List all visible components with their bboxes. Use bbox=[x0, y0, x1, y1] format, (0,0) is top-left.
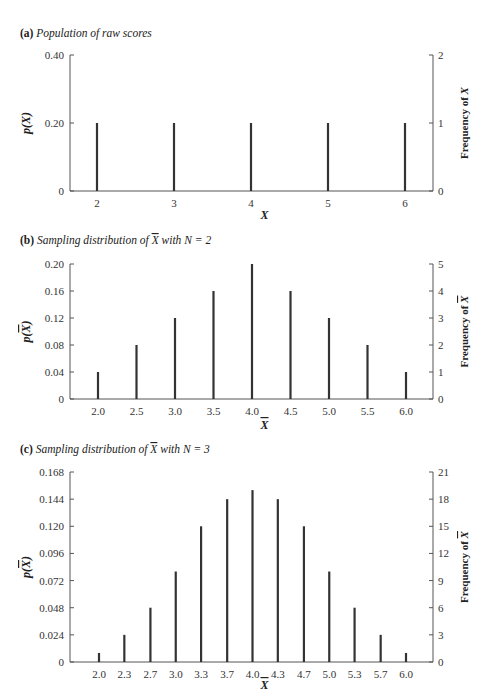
x-tick-label: 5.0 bbox=[322, 405, 336, 417]
panel-title: (b) Sampling distribution of X with N = … bbox=[20, 234, 211, 247]
y-tick-label: 0.120 bbox=[39, 520, 64, 532]
y-tick-label: 0 bbox=[59, 656, 65, 668]
chart-panel-c: (c) Sampling distribution of X with N = … bbox=[19, 443, 470, 692]
x-tick-label: 4.0 bbox=[245, 405, 259, 417]
x-tick-label: 2.0 bbox=[92, 668, 106, 680]
y-tick-label-right: 3 bbox=[438, 629, 444, 641]
x-tick-label: 2.5 bbox=[130, 405, 144, 417]
y-tick-label: 0.16 bbox=[45, 285, 65, 297]
x-tick-label: 3 bbox=[171, 197, 177, 209]
y-tick-label: 0.08 bbox=[45, 339, 65, 351]
x-axis-label: X bbox=[259, 678, 269, 692]
y-tick-label-right: 2 bbox=[438, 339, 444, 351]
figure: (a) Population of raw scores00.200.40012… bbox=[0, 0, 491, 693]
y-tick-label-right: 0 bbox=[438, 393, 444, 405]
y-tick-label-right: 2 bbox=[438, 49, 444, 61]
x-tick-label: 3.5 bbox=[207, 405, 221, 417]
x-tick-label: 6 bbox=[402, 197, 408, 209]
y-tick-label-right: 21 bbox=[438, 466, 449, 478]
y-tick-label-right: 1 bbox=[438, 366, 444, 378]
y-tick-label-right: 0 bbox=[438, 656, 444, 668]
y-tick-label: 0.096 bbox=[39, 547, 64, 559]
x-tick-label: 3.0 bbox=[169, 668, 183, 680]
y-tick-label-right: 5 bbox=[438, 258, 444, 270]
y-tick-label: 0.072 bbox=[39, 575, 64, 587]
y-tick-label-right: 0 bbox=[438, 185, 444, 197]
x-axis-label: X bbox=[259, 208, 269, 222]
y-tick-label: 0.144 bbox=[39, 493, 64, 505]
x-tick-label: 2.0 bbox=[91, 405, 105, 417]
x-tick-label: 5.7 bbox=[374, 668, 388, 680]
x-tick-label: 5.0 bbox=[322, 668, 336, 680]
y-tick-label-right: 3 bbox=[438, 312, 444, 324]
x-tick-label: 3.7 bbox=[220, 668, 234, 680]
x-tick-label: 4.7 bbox=[297, 668, 311, 680]
y-tick-label-right: 4 bbox=[438, 285, 444, 297]
y-tick-label: 0 bbox=[59, 393, 65, 405]
y-tick-label: 0.12 bbox=[45, 312, 64, 324]
x-tick-label: 4.0 bbox=[246, 668, 260, 680]
x-tick-label: 4.5 bbox=[284, 405, 298, 417]
x-tick-label: 5 bbox=[325, 197, 331, 209]
x-axis-label: X bbox=[259, 418, 269, 432]
y-tick-label: 0.024 bbox=[39, 629, 64, 641]
y-tick-label-right: 15 bbox=[438, 520, 450, 532]
y-tick-label: 0.04 bbox=[45, 366, 65, 378]
x-tick-label: 2.7 bbox=[144, 668, 158, 680]
y-tick-label: 0.168 bbox=[39, 466, 64, 478]
y-axis-label-right: Frequency of X bbox=[458, 530, 470, 603]
y-tick-label-right: 18 bbox=[438, 493, 450, 505]
x-tick-label: 5.3 bbox=[348, 668, 362, 680]
x-tick-label: 2.3 bbox=[117, 668, 131, 680]
x-tick-label: 6.0 bbox=[399, 405, 413, 417]
y-tick-label-right: 12 bbox=[438, 547, 449, 559]
x-tick-label: 2 bbox=[94, 197, 100, 209]
panel-title: (c) Sampling distribution of X with N = … bbox=[20, 443, 210, 456]
y-tick-label: 0.048 bbox=[39, 602, 64, 614]
x-tick-label: 4.3 bbox=[271, 668, 285, 680]
x-tick-label: 4 bbox=[248, 197, 254, 209]
x-tick-label: 5.5 bbox=[361, 405, 375, 417]
y-axis-label-right: Frequency of X bbox=[458, 295, 470, 368]
y-tick-label: 0 bbox=[59, 185, 65, 197]
y-tick-label-right: 1 bbox=[438, 117, 444, 129]
panel-title: (a) Population of raw scores bbox=[20, 27, 152, 40]
y-tick-label: 0.20 bbox=[45, 117, 65, 129]
y-tick-label-right: 6 bbox=[438, 602, 444, 614]
x-tick-label: 3.0 bbox=[168, 405, 182, 417]
x-tick-label: 6.0 bbox=[399, 668, 413, 680]
y-axis-label-left: p(X) bbox=[19, 556, 33, 579]
y-axis-label-right: Frequency of X bbox=[458, 86, 470, 159]
chart-panel-a: (a) Population of raw scores00.200.40012… bbox=[19, 27, 470, 222]
y-axis-label-left: p(X) bbox=[19, 112, 33, 135]
y-tick-label: 0.20 bbox=[45, 258, 65, 270]
y-tick-label-right: 9 bbox=[438, 575, 444, 587]
y-axis-label-left: p(X) bbox=[19, 320, 33, 343]
x-tick-label: 3.3 bbox=[194, 668, 208, 680]
chart-panel-b: (b) Sampling distribution of X with N = … bbox=[19, 234, 470, 432]
y-tick-label: 0.40 bbox=[45, 49, 65, 61]
